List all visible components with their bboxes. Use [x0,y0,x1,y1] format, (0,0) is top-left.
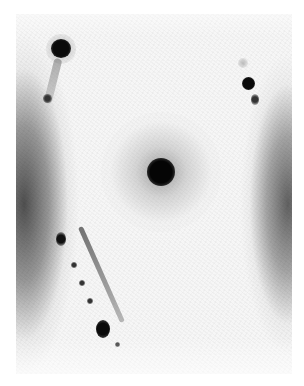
chain-end [96,320,110,338]
chain-head [56,232,66,246]
top-right-faint-spot [238,58,248,68]
chain-knot [79,280,85,286]
photographic-plate [16,14,292,374]
chain-knot [71,262,77,268]
top-left-tail-spot [43,94,52,103]
top-left-spot [51,39,71,58]
central-source [147,158,175,186]
chain-tail-dot [115,342,120,347]
top-right-tail-spot [251,94,259,105]
chain-knot [87,298,93,304]
top-right-spot [242,77,255,90]
